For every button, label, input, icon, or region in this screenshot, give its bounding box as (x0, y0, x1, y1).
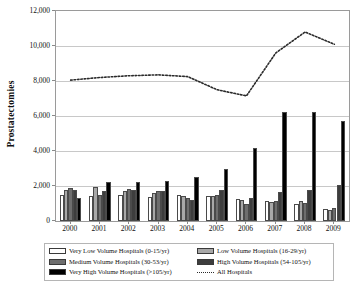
y-axis-tick-label: 10,000 (0, 41, 50, 50)
x-axis-tick-label: 2005 (209, 224, 224, 233)
legend-item[interactable]: Very Low Volume Hospitals (0-15/yr) (49, 248, 197, 255)
x-axis-tick-label: 2009 (326, 224, 341, 233)
legend-item[interactable]: High Volume Hospitals (54-105/yr) (197, 259, 311, 266)
x-axis-tick-label: 2007 (267, 224, 282, 233)
y-axis-tick-mark (52, 10, 55, 11)
x-axis-tick-mark (70, 221, 71, 224)
legend-label: Low Volume Hospitals (16-29/yr) (217, 248, 306, 255)
legend-color-swatch (197, 259, 214, 265)
legend-label: Very High Volume Hospitals (>105/yr) (69, 269, 172, 276)
legend-row: Very Low Volume Hospitals (0-15/yr)Low V… (49, 246, 329, 257)
legend-item[interactable]: Very High Volume Hospitals (>105/yr) (49, 269, 197, 276)
legend-color-swatch (49, 248, 66, 254)
y-axis-tick-label: 4,000 (0, 146, 50, 155)
y-axis-tick-mark (52, 115, 55, 116)
legend-color-swatch (197, 248, 214, 254)
all-hospitals-line (56, 11, 351, 223)
y-axis-tick-mark (52, 150, 55, 151)
x-axis-tick-label: 2003 (150, 224, 165, 233)
x-axis-tick-label: 2004 (179, 224, 194, 233)
x-axis-tick-mark (187, 221, 188, 224)
x-axis-tick-mark (128, 221, 129, 224)
legend-label: Medium Volume Hospitals (30-53/yr) (69, 259, 169, 266)
legend-color-swatch (49, 269, 66, 275)
x-axis-tick-mark (275, 221, 276, 224)
x-axis-tick-label: 2002 (121, 224, 136, 233)
y-axis-tick-label: 2,000 (0, 181, 50, 190)
plot-area (55, 10, 350, 222)
x-axis-tick-label: 2008 (297, 224, 312, 233)
y-axis-tick-mark (52, 80, 55, 81)
y-axis-tick-label: 6,000 (0, 111, 50, 120)
all-hospitals-polyline (71, 32, 335, 96)
legend-dotted-line-icon (197, 269, 214, 275)
x-axis-tick-mark (245, 221, 246, 224)
x-axis-tick-label: 2000 (62, 224, 77, 233)
chart-legend: Very Low Volume Hospitals (0-15/yr)Low V… (44, 243, 334, 281)
legend-color-swatch (49, 259, 66, 265)
legend-item[interactable]: Medium Volume Hospitals (30-53/yr) (49, 259, 197, 266)
legend-label: Very Low Volume Hospitals (0-15/yr) (69, 248, 169, 255)
x-axis-tick-mark (99, 221, 100, 224)
x-axis-tick-mark (158, 221, 159, 224)
x-axis-labels: 2000200120022003200420052006200720082009 (55, 224, 350, 236)
y-axis-tick-label: 0 (0, 216, 50, 225)
legend-row: Very High Volume Hospitals (>105/yr)All … (49, 267, 329, 278)
x-axis-tick-label: 2001 (91, 224, 106, 233)
x-axis-tick-mark (216, 221, 217, 224)
prostatectomy-volume-chart: Prostatectomies 02,0004,0006,0008,00010,… (0, 0, 361, 284)
x-axis-tick-mark (333, 221, 334, 224)
y-axis-tick-mark (52, 220, 55, 221)
y-axis-tick-mark (52, 45, 55, 46)
legend-item[interactable]: Low Volume Hospitals (16-29/yr) (197, 248, 306, 255)
y-axis-tick-label: 12,000 (0, 6, 50, 15)
legend-label: High Volume Hospitals (54-105/yr) (217, 259, 311, 266)
y-axis-tick-mark (52, 185, 55, 186)
x-axis-tick-mark (304, 221, 305, 224)
x-axis-tick-label: 2006 (238, 224, 253, 233)
legend-item[interactable]: All Hospitals (197, 269, 252, 276)
y-axis-tick-label: 8,000 (0, 76, 50, 85)
legend-row: Medium Volume Hospitals (30-53/yr)High V… (49, 257, 329, 268)
legend-label: All Hospitals (217, 269, 252, 276)
